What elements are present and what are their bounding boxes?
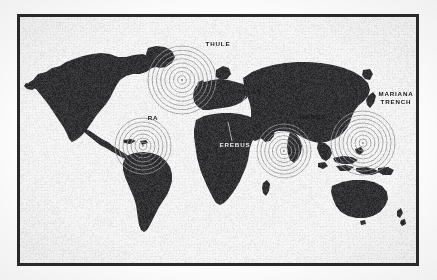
map-frame: THULEATLASRAHADESMARIANA TRENCHEREBUS bbox=[17, 14, 419, 266]
map-label-erebus[interactable]: EREBUS bbox=[220, 141, 251, 149]
map-label-mariana[interactable]: MARIANA TRENCH bbox=[378, 90, 413, 105]
world-map-canvas[interactable] bbox=[20, 17, 416, 263]
map-label-hades[interactable]: HADES bbox=[300, 113, 326, 121]
map-label-atlas[interactable]: ATLAS bbox=[238, 88, 262, 96]
map-label-thule[interactable]: THULE bbox=[206, 40, 231, 48]
map-label-ra[interactable]: RA bbox=[148, 114, 159, 122]
